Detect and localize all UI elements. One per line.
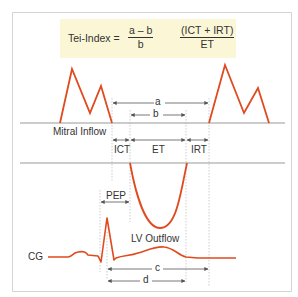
label-d: d — [143, 274, 149, 285]
label-et: ET — [152, 144, 165, 155]
mitral-inflow-wave-left — [60, 69, 112, 123]
label-a: a — [155, 96, 161, 107]
label-cg: CG — [28, 251, 43, 262]
label-b: b — [153, 108, 159, 119]
mitral-inflow-wave-right — [209, 65, 269, 123]
waveform-diagram — [0, 0, 298, 297]
label-lv-outflow: LV Outflow — [131, 233, 179, 244]
label-c: c — [155, 262, 160, 273]
label-pep: PEP — [106, 190, 126, 201]
label-mitral-inflow: Mitral Inflow — [53, 126, 106, 137]
lv-outflow-wave — [130, 163, 187, 228]
label-irt: IRT — [191, 144, 207, 155]
label-ict: ICT — [114, 144, 130, 155]
